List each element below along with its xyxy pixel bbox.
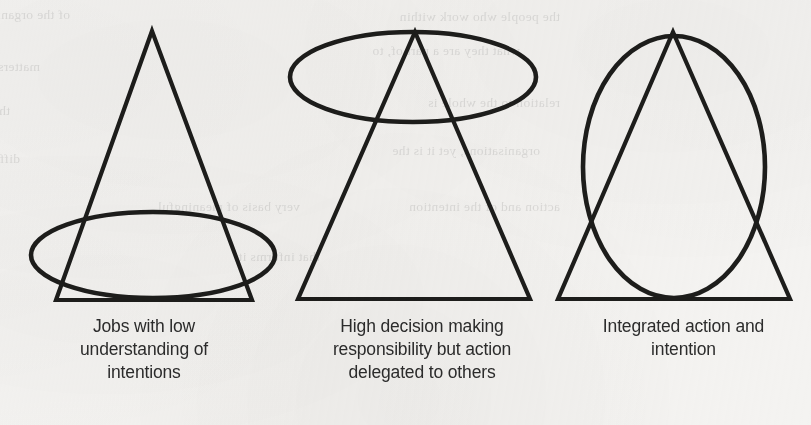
caption-line: intentions: [0, 361, 288, 384]
caption-line: understanding of: [0, 338, 288, 361]
caption-line: delegated to others: [288, 361, 556, 384]
caption-line: High decision making: [288, 315, 556, 338]
caption-low-understanding: Jobs with low understanding of intention…: [0, 307, 288, 384]
caption-line: Integrated action and: [556, 315, 811, 338]
caption-integrated: Integrated action and intention: [556, 307, 811, 361]
ellipse-shape: [583, 36, 765, 298]
diagram-canvas: [0, 0, 811, 310]
triangle-shape: [558, 32, 790, 299]
caption-line: responsibility but action: [288, 338, 556, 361]
ellipse-shape: [31, 212, 275, 298]
caption-delegated-action: High decision making responsibility but …: [288, 307, 556, 384]
ellipse-shape: [290, 32, 536, 122]
triangle-shape: [56, 31, 252, 300]
figure-root: of the organisation and its the people w…: [0, 0, 811, 425]
panel-integrated: [558, 32, 790, 299]
caption-line: Jobs with low: [0, 315, 288, 338]
panel-delegated-action: [290, 32, 536, 299]
caption-line: intention: [556, 338, 811, 361]
triangle-shape: [298, 32, 530, 299]
caption-group: Jobs with low understanding of intention…: [0, 307, 811, 384]
panel-low-understanding: [31, 31, 275, 300]
diagram-group: [0, 0, 811, 310]
